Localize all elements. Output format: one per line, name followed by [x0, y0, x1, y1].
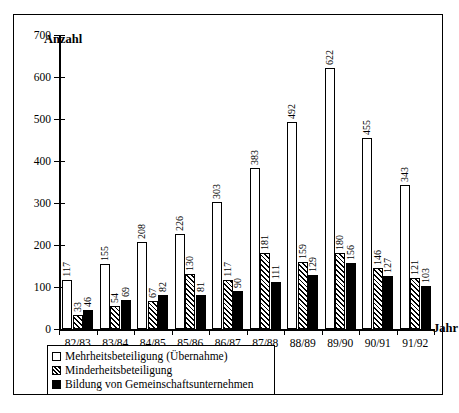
bar-group: 22613081 — [172, 35, 210, 329]
x-axis-title: Jahr — [433, 321, 458, 336]
bar: 46 — [83, 310, 93, 329]
bar-value-label: 103 — [421, 268, 431, 283]
bar-group: 1555469 — [97, 35, 135, 329]
bar-group: 492159129 — [284, 35, 322, 329]
y-axis-tick-label: 100 — [34, 281, 51, 293]
x-axis-tick-label: 90/91 — [365, 337, 391, 349]
y-axis-tick-label: 200 — [34, 239, 51, 251]
x-axis-tick-label: 91/92 — [402, 337, 428, 349]
legend-label: Bildung von Gemeinschaftsunternehmen — [65, 378, 253, 390]
y-axis-tick-label: 0 — [45, 323, 51, 335]
bar: 622 — [325, 68, 335, 329]
bar: 343 — [400, 185, 410, 329]
bar: 54 — [110, 306, 120, 329]
bar-value-label: 46 — [83, 297, 93, 307]
bar: 455 — [362, 138, 372, 329]
bar: 492 — [287, 122, 297, 329]
x-axis-tick — [209, 329, 210, 335]
legend-item: Mehrheitsbeteiligung (Übernahme) — [52, 349, 270, 363]
bar-value-label: 622 — [325, 50, 335, 65]
bar-group: 30311790 — [209, 35, 247, 329]
bar: 208 — [137, 242, 147, 329]
bar-value-label: 129 — [308, 257, 318, 272]
bar: 159 — [298, 262, 308, 329]
legend-swatch-icon — [52, 380, 61, 389]
x-axis-tick — [134, 329, 135, 335]
bar-group: 343121103 — [397, 35, 435, 329]
chart-legend: Mehrheitsbeteiligung (Übernahme)Minderhe… — [47, 345, 275, 395]
bar: 33 — [73, 315, 83, 329]
x-axis-tick — [172, 329, 173, 335]
bar: 146 — [373, 268, 383, 329]
bar: 67 — [148, 301, 158, 329]
bar-value-label: 156 — [346, 245, 356, 260]
y-axis-tick-label: 600 — [34, 71, 51, 83]
x-axis-tick — [397, 329, 398, 335]
bar-value-label: 226 — [175, 216, 185, 231]
bar: 180 — [335, 253, 345, 329]
bar-value-label: 155 — [100, 246, 110, 261]
bar-value-label: 111 — [271, 265, 281, 279]
bar-value-label: 54 — [110, 293, 120, 303]
x-axis-tick — [434, 329, 435, 335]
bar: 156 — [346, 263, 356, 329]
bar-group: 455146127 — [359, 35, 397, 329]
bar-value-label: 455 — [362, 120, 372, 135]
y-axis-tick-label: 700 — [34, 29, 51, 41]
bar: 82 — [158, 295, 168, 329]
bar: 69 — [121, 300, 131, 329]
bar-group: 622180156 — [322, 35, 360, 329]
bar-group: 1173346 — [59, 35, 97, 329]
x-axis-tick — [322, 329, 323, 335]
bar-value-label: 383 — [250, 150, 260, 165]
bar-value-label: 130 — [185, 256, 195, 271]
legend-label: Mehrheitsbeteiligung (Übernahme) — [65, 350, 228, 362]
bar-value-label: 69 — [121, 287, 131, 297]
legend-item: Bildung von Gemeinschaftsunternehmen — [52, 377, 270, 391]
x-axis-tick-label: 89/90 — [327, 337, 353, 349]
bar-value-label: 343 — [400, 167, 410, 182]
bar-value-label: 303 — [212, 184, 222, 199]
bar-value-label: 208 — [137, 224, 147, 239]
bar-group: 2086782 — [134, 35, 172, 329]
bar-value-label: 181 — [260, 235, 270, 250]
x-axis-tick — [97, 329, 98, 335]
plot-area: 0100200300400500600700 11733461555469208… — [59, 35, 434, 331]
bar-value-label: 90 — [233, 278, 243, 288]
y-axis-tick-label: 500 — [34, 113, 51, 125]
x-axis-tick — [284, 329, 285, 335]
chart-frame: Anzahl Jahr 0100200300400500600700 11733… — [13, 14, 443, 395]
y-axis-tick-label: 300 — [34, 197, 51, 209]
bar: 117 — [62, 280, 72, 329]
bar: 129 — [308, 275, 318, 329]
bar: 127 — [383, 276, 393, 329]
bar: 130 — [185, 274, 195, 329]
bar-value-label: 117 — [62, 262, 72, 277]
bar: 103 — [421, 286, 431, 329]
bar-value-label: 117 — [223, 262, 233, 277]
x-axis-tick — [59, 329, 60, 335]
legend-swatch-icon — [52, 352, 61, 361]
bar: 81 — [196, 295, 206, 329]
bar: 303 — [212, 202, 222, 329]
bar: 121 — [410, 278, 420, 329]
bar-value-label: 127 — [383, 258, 393, 273]
bar-value-label: 81 — [196, 282, 206, 292]
legend-swatch-icon — [52, 366, 61, 375]
bar-value-label: 121 — [410, 260, 420, 275]
legend-item: Minderheitsbeteiligung — [52, 363, 270, 377]
bar: 226 — [175, 234, 185, 329]
bar-value-label: 180 — [335, 235, 345, 250]
bar: 181 — [260, 253, 270, 329]
bar: 111 — [271, 282, 281, 329]
bar-value-label: 492 — [287, 104, 297, 119]
bar-value-label: 82 — [158, 282, 168, 292]
x-axis-tick — [247, 329, 248, 335]
legend-label: Minderheitsbeteiligung — [65, 364, 172, 376]
y-axis-tick-label: 400 — [34, 155, 51, 167]
bar: 90 — [233, 291, 243, 329]
bar-group: 383181111 — [247, 35, 285, 329]
x-axis-tick — [359, 329, 360, 335]
x-axis-tick-label: 88/89 — [290, 337, 316, 349]
